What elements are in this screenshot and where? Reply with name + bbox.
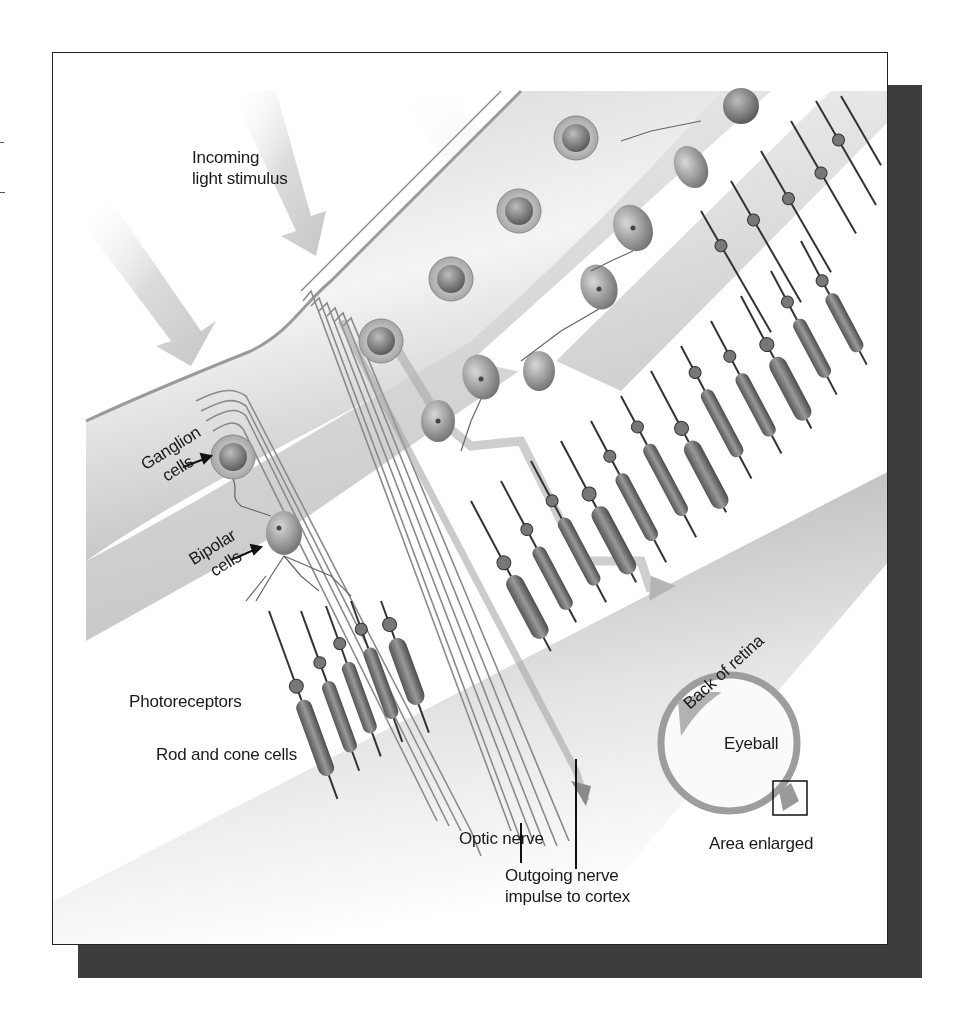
optic-nerve-label: Optic nerve: [459, 828, 544, 849]
outgoing-impulse-label: Outgoing nerve impulse to cortex: [505, 865, 630, 907]
outgoing-impulse-leader: [575, 759, 577, 869]
margin-mark: [0, 142, 4, 143]
eyeball-label: Eyeball: [724, 733, 778, 754]
retina-illustration: [53, 53, 888, 945]
incoming-light-label: Incoming light stimulus: [192, 147, 287, 189]
area-enlarged-label: Area enlarged: [709, 833, 813, 854]
figure-frame: Incoming light stimulus Ganglion cells B…: [52, 52, 888, 945]
photoreceptors-label: Photoreceptors: [129, 691, 242, 712]
rod-cone-cells-label: Rod and cone cells: [156, 744, 297, 765]
margin-mark: [0, 192, 5, 193]
